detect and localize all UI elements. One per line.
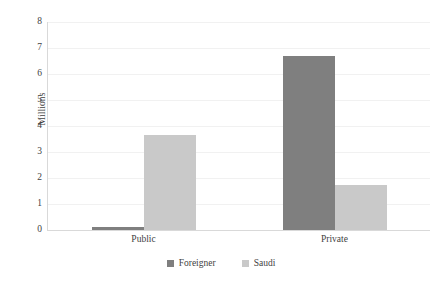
y-axis-tick-label: 4	[2, 121, 42, 131]
gridline	[48, 126, 430, 127]
legend-label: Foreigner	[179, 259, 216, 269]
x-axis-label-public: Public	[94, 234, 194, 244]
bar-public-saudi[interactable]	[144, 135, 196, 230]
legend-label: Saudi	[254, 259, 276, 269]
legend-swatch-icon	[242, 260, 249, 267]
bar-private-saudi[interactable]	[335, 185, 387, 231]
y-axis-tick-label: 5	[2, 95, 42, 105]
y-axis-tick-label: 1	[2, 199, 42, 209]
legend-item-saudi[interactable]: Saudi	[242, 259, 276, 269]
x-axis-label-private: Private	[285, 234, 385, 244]
y-axis-tick-labels: 876543210	[0, 22, 42, 230]
gridline	[48, 100, 430, 101]
y-axis-tick-label: 3	[2, 147, 42, 157]
gridline	[48, 178, 430, 179]
y-axis-tick-label: 2	[2, 173, 42, 183]
bar-chart: Millions 876543210 Public Private Foreig…	[0, 0, 442, 285]
chart-legend: ForeignerSaudi	[0, 259, 442, 269]
gridline	[48, 230, 430, 231]
legend-swatch-icon	[167, 260, 174, 267]
legend-item-foreigner[interactable]: Foreigner	[167, 259, 216, 269]
gridline	[48, 48, 430, 49]
y-axis-tick-label: 7	[2, 43, 42, 53]
y-axis-tick-label: 6	[2, 69, 42, 79]
bar-private-foreigner[interactable]	[283, 56, 335, 230]
gridline	[48, 74, 430, 75]
bar-public-foreigner[interactable]	[92, 227, 144, 230]
gridline	[48, 22, 430, 23]
y-axis-tick-label: 8	[2, 17, 42, 27]
gridline	[48, 152, 430, 153]
y-axis-tick-label: 0	[2, 225, 42, 235]
plot-area	[48, 22, 430, 230]
